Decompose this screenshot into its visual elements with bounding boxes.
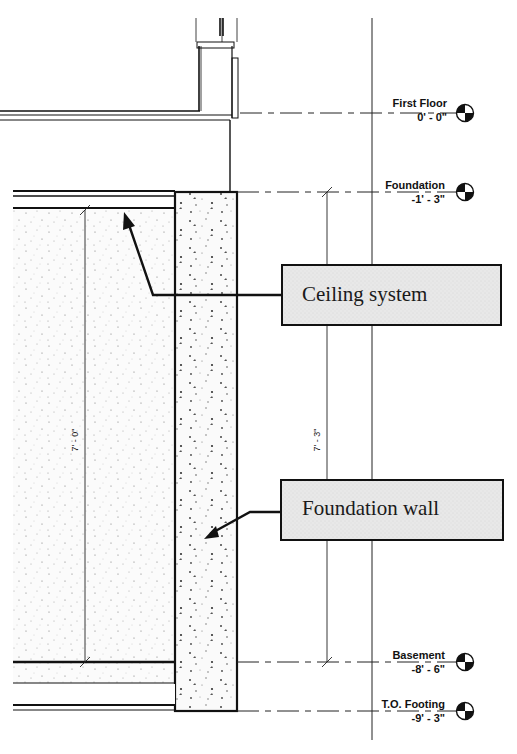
level-target-icon <box>457 184 474 201</box>
level-name: First Floor <box>393 97 448 109</box>
callout-label: Ceiling system <box>302 282 427 306</box>
first-floor-structure <box>0 18 238 192</box>
level-target-icon <box>457 703 474 720</box>
level-name: Basement <box>392 649 445 661</box>
level-target-icon <box>457 105 474 122</box>
dim-7ft-0in: 7' - 0" <box>70 429 80 452</box>
basement-slab-fill <box>13 210 175 683</box>
level-elevation: -8' - 6" <box>411 663 445 675</box>
callout-foundation-wall: Foundation wall <box>204 480 503 540</box>
level-elevation: -9' - 3" <box>411 712 445 724</box>
level-name: T.O. Footing <box>381 698 445 710</box>
level-target-icon <box>457 654 474 671</box>
level-elevation: -1' - 3" <box>411 193 445 205</box>
dim-7ft-3in: 7' - 3" <box>312 429 322 452</box>
ceiling-system <box>13 191 175 208</box>
foundation-wall <box>175 192 237 711</box>
wall-section-drawing: 7' - 0" 7' - 3" First Floor 0' - 0" Foun… <box>0 0 517 754</box>
level-name: Foundation <box>385 179 445 191</box>
level-marker-first-floor[interactable]: First Floor 0' - 0" <box>393 97 474 123</box>
level-elevation: 0' - 0" <box>417 111 447 123</box>
callout-label: Foundation wall <box>302 496 439 520</box>
